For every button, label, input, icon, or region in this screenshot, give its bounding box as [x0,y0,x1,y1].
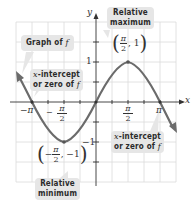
tick-y-1: 1 [86,56,92,66]
max-point-label: ( π 2 , 1 ) [112,33,147,53]
tick-half-pi: π 2 [118,104,138,123]
zero-right-point [158,100,161,103]
tick-neg-half-pi: − π 2 [52,104,72,123]
callout-x-intercept-right: x-intercept or zero of f [111,131,164,153]
tick-neg-pi: −π [20,105,33,115]
sine-graph [0,0,194,204]
y-axis-arrow-icon [94,13,99,19]
callout-relative-minimum: Relative minimum [35,178,80,200]
callout-graph-of-f: Graph of f [21,35,74,51]
max-point [126,60,130,64]
zero-origin-point [94,100,97,103]
callout-x-intercept-left: x-intercept or zero of f [30,69,83,91]
x-axis-label: x [185,95,190,105]
callout-relative-maximum: Relative maximum [107,7,154,29]
y-axis-label: y [87,7,92,17]
min-point-label: ( − π 2 , −1 ) [37,144,87,164]
zero-left-point [30,100,33,103]
tick-pi: π [156,105,162,115]
